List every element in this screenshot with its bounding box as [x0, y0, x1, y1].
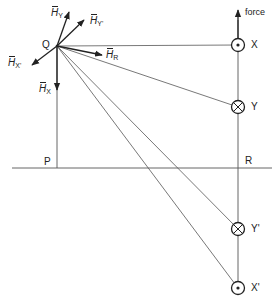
conductor-y-icon — [232, 101, 245, 114]
conductor-x-icon — [232, 39, 245, 52]
line-q-y — [57, 46, 238, 107]
label-q: Q — [42, 40, 50, 50]
label-h-r: HR — [106, 50, 118, 61]
field-diagram — [0, 0, 272, 305]
conductor-y-prime-icon — [232, 223, 245, 236]
label-h-y-prime: HY' — [90, 16, 103, 27]
label-y-prime: Y' — [251, 224, 260, 234]
label-p: P — [44, 157, 51, 167]
line-q-y-prime — [57, 46, 238, 229]
label-r: R — [245, 156, 252, 166]
label-x: X — [251, 40, 258, 50]
line-q-x — [57, 45, 238, 46]
point-q — [56, 45, 59, 48]
label-y: Y — [251, 102, 258, 112]
line-q-x-prime — [57, 46, 238, 288]
conductor-x-prime-icon — [232, 282, 245, 295]
label-h-y: HY — [51, 8, 63, 19]
label-h-x-prime: HX' — [8, 58, 21, 69]
label-h-x: HX — [39, 84, 51, 95]
label-force: force — [245, 8, 265, 17]
label-x-prime: X' — [251, 283, 260, 293]
